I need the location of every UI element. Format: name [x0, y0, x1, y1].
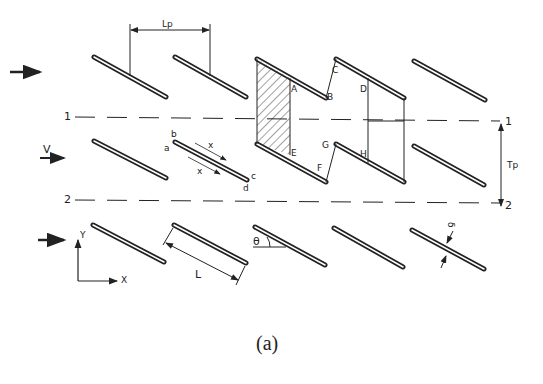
theta-label: θ	[253, 235, 260, 248]
axis-y-label: Y	[79, 230, 86, 240]
cv-label-f: F	[317, 163, 322, 173]
tp-label: Tp	[506, 160, 518, 170]
plates-row-bottom	[93, 225, 484, 269]
xy-axes	[78, 240, 117, 281]
corner-c-label: c	[251, 171, 256, 181]
cv-label-g: G	[322, 140, 329, 150]
cv-label-d: D	[360, 84, 367, 94]
delta-label: δ	[446, 222, 456, 228]
corner-d-label: d	[243, 183, 249, 193]
flow-x-lower-label: x	[197, 166, 203, 176]
l-label: L	[195, 268, 202, 281]
corner-a-label: a	[164, 143, 170, 153]
line-2-right-label: 2	[505, 199, 512, 212]
line-2-left-label: 2	[64, 193, 71, 206]
figure-caption: (a)	[256, 332, 278, 355]
corner-b-label: b	[171, 129, 177, 139]
cv-label-c: C	[332, 65, 338, 75]
flow-x-upper-label: x	[208, 140, 214, 150]
velocity-label: V	[43, 143, 51, 156]
line-1-left-label: 1	[64, 110, 71, 123]
strip-fin-diagram: 1 2 1 2 Lp Tp V x x a b c d A B C D E F …	[0, 0, 543, 384]
lp-label: Lp	[162, 19, 173, 29]
cv-label-a: A	[291, 84, 298, 94]
cv-label-h: H	[360, 149, 367, 159]
cv-label-e: E	[291, 148, 297, 158]
line-1-right-label: 1	[505, 115, 512, 128]
axis-x-label: X	[121, 275, 127, 285]
dashed-line-2	[75, 200, 500, 203]
cv-label-b: B	[327, 92, 333, 102]
